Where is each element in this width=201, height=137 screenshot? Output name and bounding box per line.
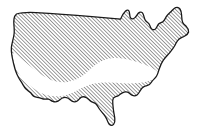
figure-root: Contiguous United States outline map Han… bbox=[0, 0, 201, 137]
us-map-illustration: Contiguous United States outline map Han… bbox=[0, 0, 201, 137]
